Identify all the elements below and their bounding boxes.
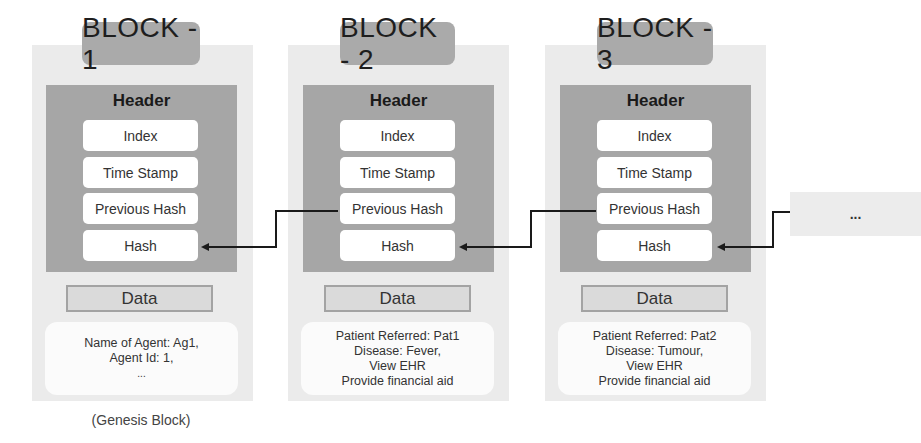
header-section: Header Index Time Stamp Previous Hash Ha… bbox=[560, 85, 751, 272]
data-line: View EHR bbox=[369, 359, 426, 374]
data-label: Data bbox=[581, 285, 728, 312]
field-previous-hash: Previous Hash bbox=[597, 193, 712, 224]
data-content: Patient Referred: Pat1 Disease: Fever, V… bbox=[301, 322, 494, 395]
header-title: Header bbox=[303, 91, 494, 111]
data-content: Name of Agent: Ag1, Agent Id: 1, ... bbox=[45, 322, 238, 395]
header-title: Header bbox=[46, 91, 237, 111]
data-content: Patient Referred: Pat2 Disease: Tumour, … bbox=[558, 322, 751, 395]
data-line: Disease: Fever, bbox=[354, 344, 441, 359]
field-index: Index bbox=[340, 120, 455, 151]
block-title: BLOCK - 3 bbox=[597, 22, 713, 65]
field-time-stamp: Time Stamp bbox=[597, 157, 712, 188]
field-previous-hash: Previous Hash bbox=[340, 193, 455, 224]
data-line: Agent Id: 1, bbox=[110, 351, 174, 366]
header-title: Header bbox=[560, 91, 751, 111]
field-time-stamp: Time Stamp bbox=[340, 157, 455, 188]
field-index: Index bbox=[597, 120, 712, 151]
data-line: Patient Referred: Pat2 bbox=[593, 329, 717, 344]
field-index: Index bbox=[83, 120, 198, 151]
data-label: Data bbox=[324, 285, 471, 312]
header-section: Header Index Time Stamp Previous Hash Ha… bbox=[46, 85, 237, 272]
data-line: Patient Referred: Pat1 bbox=[336, 329, 460, 344]
block-3: BLOCK - 3 Header Index Time Stamp Previo… bbox=[545, 45, 766, 401]
data-line: Provide financial aid bbox=[342, 374, 454, 389]
block-1: BLOCK - 1 Header Index Time Stamp Previo… bbox=[32, 45, 253, 401]
block-title: BLOCK - 2 bbox=[340, 22, 455, 65]
data-line: Name of Agent: Ag1, bbox=[84, 336, 199, 351]
data-line: Disease: Tumour, bbox=[606, 344, 703, 359]
data-label: Data bbox=[66, 285, 213, 312]
field-hash: Hash bbox=[83, 230, 198, 261]
block-title: BLOCK - 1 bbox=[82, 22, 200, 65]
field-previous-hash: Previous Hash bbox=[83, 193, 198, 224]
data-line: Provide financial aid bbox=[599, 374, 711, 389]
data-line: View EHR bbox=[626, 359, 683, 374]
header-section: Header Index Time Stamp Previous Hash Ha… bbox=[303, 85, 494, 272]
field-hash: Hash bbox=[597, 230, 712, 261]
next-block-placeholder: ... bbox=[790, 192, 921, 236]
field-hash: Hash bbox=[340, 230, 455, 261]
genesis-caption: (Genesis Block) bbox=[66, 412, 216, 428]
block-2: BLOCK - 2 Header Index Time Stamp Previo… bbox=[288, 45, 509, 401]
field-time-stamp: Time Stamp bbox=[83, 157, 198, 188]
data-line: ... bbox=[137, 366, 145, 381]
